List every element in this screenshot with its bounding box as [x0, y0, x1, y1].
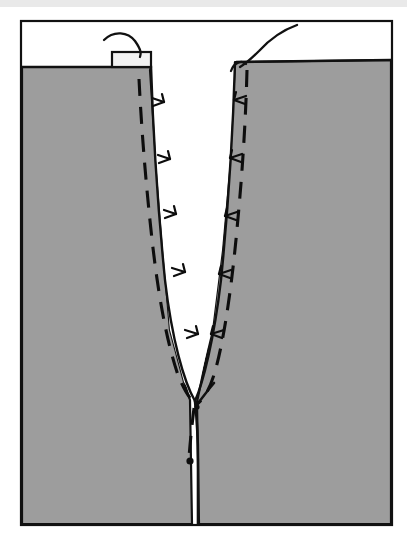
diagram-svg: Sewing construction diagram: clipped and…	[0, 0, 407, 535]
fabric-tab	[112, 52, 151, 67]
sewing-diagram-figure: Sewing construction diagram: clipped and…	[0, 0, 407, 535]
dot-marking	[186, 457, 193, 464]
diagram-page: Sewing construction diagram: clipped and…	[0, 0, 407, 535]
fork-junction-dot	[194, 404, 199, 409]
